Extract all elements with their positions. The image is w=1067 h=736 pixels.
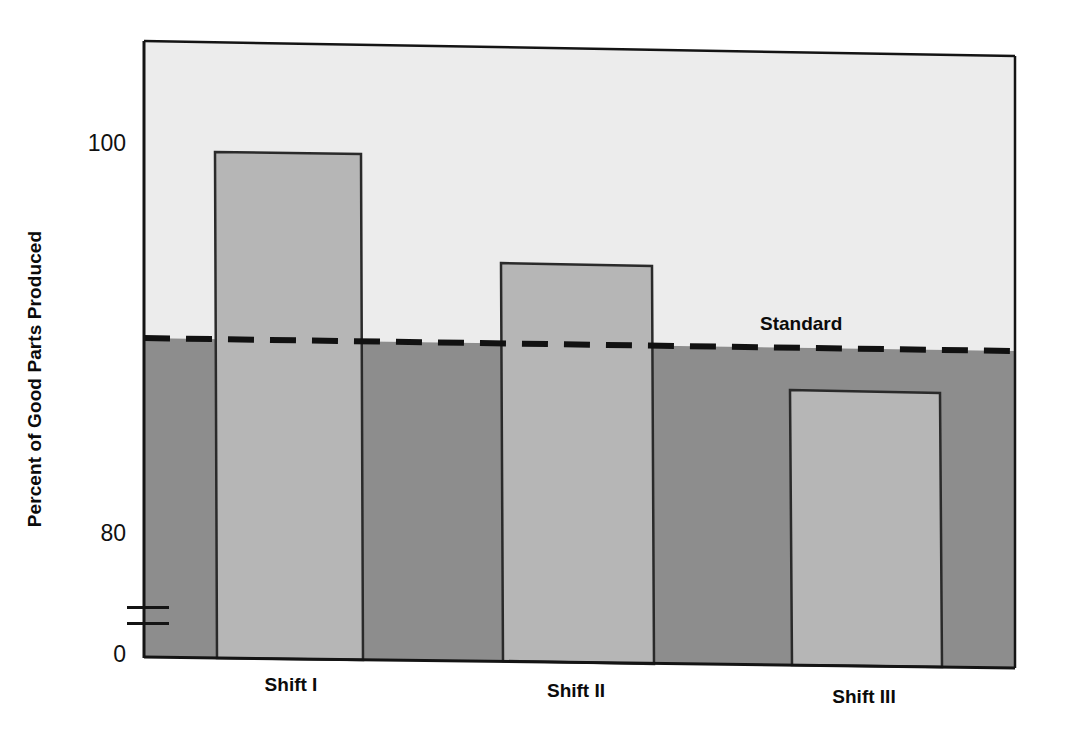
y-tick-label-100: 100 bbox=[66, 132, 126, 155]
bar-shift-iii[interactable] bbox=[790, 390, 942, 667]
standard-annotation-label: Standard bbox=[760, 313, 842, 335]
axis-break-mark-upper bbox=[127, 606, 169, 609]
x-tick-label-shift-ii: Shift II bbox=[500, 680, 652, 702]
bar-shift-ii[interactable] bbox=[501, 263, 654, 664]
axis-break-mark-lower bbox=[127, 622, 169, 625]
y-tick-label-80: 80 bbox=[66, 522, 126, 545]
plot-area bbox=[0, 0, 1067, 736]
y-tick-label-0: 0 bbox=[66, 643, 126, 666]
x-tick-label-shift-iii: Shift III bbox=[788, 686, 940, 708]
y-axis-title: Percent of Good Parts Produced bbox=[24, 199, 46, 559]
x-tick-label-shift-i: Shift I bbox=[216, 674, 366, 696]
bar-chart: Percent of Good Parts Produced 100 80 0 … bbox=[0, 0, 1067, 736]
bar-shift-i[interactable] bbox=[215, 152, 363, 660]
